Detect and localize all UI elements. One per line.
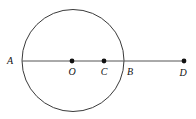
point-label-C: C [101, 66, 108, 77]
point-dot-C [102, 59, 107, 64]
point-label-O: O [68, 66, 75, 77]
point-label-D: D [178, 67, 187, 78]
point-label-B: B [127, 66, 133, 77]
point-label-A: A [6, 55, 14, 66]
geometry-diagram: A O C B D [0, 0, 196, 119]
diagram-background [0, 0, 196, 119]
figure-container: A O C B D [0, 0, 196, 119]
point-dot-D [182, 59, 187, 64]
point-dot-O [70, 59, 75, 64]
